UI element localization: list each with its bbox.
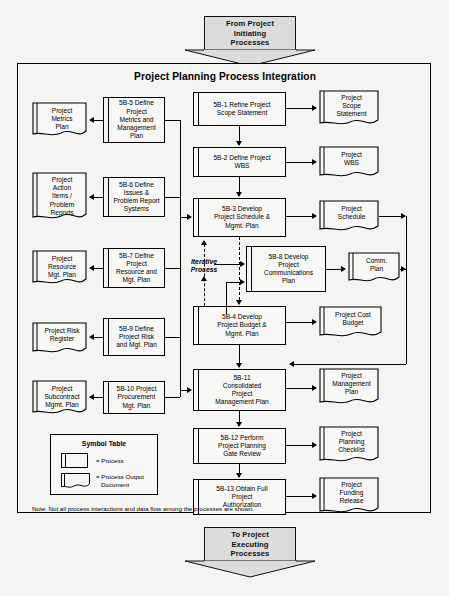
document-label: Project Cost Budget xyxy=(328,311,378,327)
arrowhead xyxy=(312,385,317,391)
process-label: 5B-10 Project Procurement Mgt. Plan xyxy=(108,385,161,410)
document-label: Project Schedule xyxy=(328,205,375,221)
arrowhead xyxy=(289,361,294,367)
document-label: Project Risk Register xyxy=(41,327,83,343)
connector xyxy=(326,269,341,270)
arrowhead xyxy=(312,442,317,448)
connector xyxy=(165,197,180,198)
diagram-frame: Project Planning Process Integration 5B-… xyxy=(17,63,431,513)
connector xyxy=(165,337,180,338)
banner-line-2: Initiating xyxy=(234,29,267,39)
process-5b-10[interactable]: 5B-10 Project Procurement Mgt. Plan xyxy=(103,381,165,414)
connector xyxy=(214,264,240,265)
iterative-dashed-up xyxy=(204,244,205,306)
process-label: 5B-1 Refine Project Scope Statement xyxy=(204,101,274,117)
connector xyxy=(226,282,240,283)
arrowhead xyxy=(89,334,94,340)
arrowhead xyxy=(236,300,242,305)
legend-title: Symbol Table xyxy=(51,440,157,447)
document-project-cost-budget: Project Cost Budget xyxy=(319,306,382,340)
arrowhead xyxy=(187,387,192,393)
banner-line-1: From Project xyxy=(226,19,274,29)
connector-bus-right xyxy=(406,216,407,364)
arrowhead xyxy=(240,261,245,267)
connector xyxy=(226,282,227,314)
banner-line-2: Executing xyxy=(231,540,268,550)
arrowhead xyxy=(312,105,317,111)
connector xyxy=(239,177,240,192)
banner-body: From Project Initiating Processes xyxy=(204,16,296,50)
connector xyxy=(165,397,180,398)
connector xyxy=(239,464,240,473)
process-label: 5B-4 Develop Project Budget & Mgmt. Plan xyxy=(208,313,270,338)
arrowhead xyxy=(236,473,242,478)
document-project-funding-release: Project Funding Release xyxy=(319,477,379,517)
connector xyxy=(286,216,312,217)
banner-arrowhead xyxy=(185,560,315,578)
connector xyxy=(379,216,401,217)
document-project-subcontract-mgmt-plan: Project Subcontract Mgmt. Plan xyxy=(32,380,87,418)
document-label: Project Scope Statement xyxy=(328,94,375,119)
connector xyxy=(180,217,187,218)
flowchart-page: From Project Initiating Processes Projec… xyxy=(0,0,449,596)
document-label: Project Management Plan xyxy=(328,372,375,397)
arrowhead xyxy=(312,319,317,325)
connector xyxy=(239,411,240,422)
arrowhead xyxy=(236,192,242,197)
legend-document-label: = Process Output Document xyxy=(96,473,144,488)
arrowhead xyxy=(89,194,94,200)
banner-line-3: Processes xyxy=(231,38,270,48)
process-label: 5B-5 Define Project Metrics and Manageme… xyxy=(108,99,160,140)
banner-body: To Project Executing Processes xyxy=(204,527,296,561)
connector xyxy=(286,108,312,109)
document-project-metrics-plan: Project Metrics Plan xyxy=(32,102,87,140)
document-label: Comm. Plan xyxy=(357,257,396,273)
process-label: 5B-12 Perform Project Planning Gate Revi… xyxy=(209,434,270,459)
document-comm-plan: Comm. Plan xyxy=(348,252,400,285)
process-5b-8[interactable]: 5B-8 Develop Project Communications Plan xyxy=(246,246,326,292)
iterative-dashed-down xyxy=(239,237,240,300)
process-label: 5B-3 Develop Project Schedule & Mgmt. Pl… xyxy=(205,205,274,230)
process-5b-6[interactable]: 5B-6 Define Issues & Problem Report Syst… xyxy=(103,177,165,217)
process-5b-12[interactable]: 5B-12 Perform Project Planning Gate Revi… xyxy=(193,428,286,464)
document-project-schedule: Project Schedule xyxy=(319,200,379,234)
document-project-wbs: Project WBS xyxy=(319,146,379,180)
process-5b-4[interactable]: 5B-4 Develop Project Budget & Mgmt. Plan xyxy=(193,306,286,345)
process-5b-3[interactable]: 5B-3 Develop Project Schedule & Mgmt. Pl… xyxy=(193,198,286,237)
legend-process-label: = Process xyxy=(96,457,124,465)
connector xyxy=(94,268,103,269)
document-project-action-items: Project Action Items / Problem Reports xyxy=(32,172,87,224)
process-5b-2[interactable]: 5B-2 Define Project WBS xyxy=(193,147,286,177)
legend-process-symbol xyxy=(61,453,88,468)
document-label: Project Subcontract Mgmt. Plan xyxy=(41,385,83,410)
iterative-process-label: Iterative Process xyxy=(174,258,234,275)
document-label: Project WBS xyxy=(328,151,375,167)
process-label: 5B-2 Define Project WBS xyxy=(204,154,274,170)
arrowhead xyxy=(312,159,317,165)
arrowhead xyxy=(89,265,94,271)
banner-line-1: To Project xyxy=(231,530,269,540)
legend-document-symbol xyxy=(61,473,90,490)
arrowhead xyxy=(312,213,317,219)
process-5b-11[interactable]: 5B-11 Consolidated Project Management Pl… xyxy=(193,369,286,411)
connector xyxy=(239,345,240,363)
connector xyxy=(94,197,103,198)
document-label: Project Planning Checklist xyxy=(328,430,375,455)
process-label: 5B-11 Consolidated Project Management Pl… xyxy=(206,374,273,407)
connector xyxy=(286,445,312,446)
arrowhead xyxy=(236,141,242,146)
process-5b-1[interactable]: 5B-1 Refine Project Scope Statement xyxy=(193,92,286,126)
process-5b-9[interactable]: 5B-9 Define Project Risk and Mgt. Plan xyxy=(103,318,165,356)
document-label: Project Metrics Plan xyxy=(41,107,83,132)
arrowhead xyxy=(89,394,94,400)
process-5b-7[interactable]: 5B-7 Define Project Resource and Mgt. Pl… xyxy=(103,248,165,288)
connector xyxy=(286,496,312,497)
process-5b-5[interactable]: 5B-5 Define Project Metrics and Manageme… xyxy=(103,97,165,143)
process-label: 5B-7 Define Project Resource and Mgt. Pl… xyxy=(107,252,161,285)
arrowhead xyxy=(312,493,317,499)
document-project-scope-statement: Project Scope Statement xyxy=(319,90,379,128)
connector xyxy=(94,120,103,121)
arrowhead xyxy=(89,117,94,123)
arrowhead xyxy=(240,279,245,285)
connector xyxy=(94,337,103,338)
